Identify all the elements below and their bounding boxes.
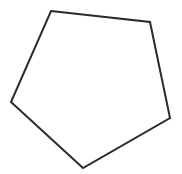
background: [0, 0, 182, 174]
diagram-canvas: [0, 0, 182, 174]
